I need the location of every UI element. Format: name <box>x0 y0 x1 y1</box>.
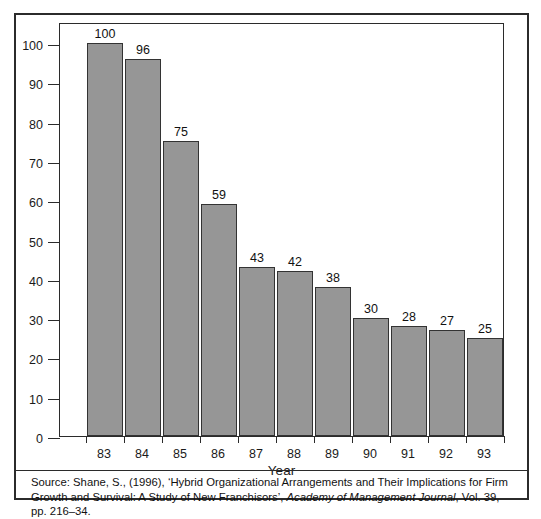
bar-slot: 59 <box>200 24 238 436</box>
y-axis-tick: 60 <box>48 202 60 203</box>
x-axis-tick-label: 88 <box>275 445 313 463</box>
bar[interactable] <box>429 330 465 436</box>
y-axis-tick: 50 <box>48 242 60 243</box>
bar-value-label: 96 <box>124 43 162 57</box>
y-axis-tick: 40 <box>48 281 60 282</box>
source-note-journal: Academy of Management Journal <box>287 491 456 503</box>
y-axis-tick-label: 10 <box>29 392 43 408</box>
x-axis-tick <box>200 436 201 443</box>
x-axis-tick-label: 93 <box>465 445 503 463</box>
x-axis-tick <box>466 436 467 443</box>
bar-slot: 28 <box>390 24 428 436</box>
y-axis-tick-label: 70 <box>29 156 43 172</box>
y-axis-tick: 90 <box>48 84 60 85</box>
x-axis-tick-label: 90 <box>351 445 389 463</box>
x-axis-tick-label: 85 <box>161 445 199 463</box>
x-axis-tick-label: 84 <box>123 445 161 463</box>
bar-value-label: 42 <box>276 255 314 269</box>
bar-slot: 25 <box>466 24 504 436</box>
plot-area: 0102030405060708090100 10096755943423830… <box>60 24 503 436</box>
bar-slot: 30 <box>352 24 390 436</box>
x-axis-tick <box>352 436 353 443</box>
x-axis-tick <box>86 436 87 443</box>
bar-value-label: 30 <box>352 302 390 316</box>
bar[interactable] <box>201 204 237 436</box>
bar-value-label: 43 <box>238 251 276 265</box>
x-axis-tick <box>124 436 125 443</box>
x-axis-tick <box>238 436 239 443</box>
bar-value-label: 100 <box>86 27 124 41</box>
figure-box: 0102030405060708090100 10096755943423830… <box>14 13 529 500</box>
bar-value-label: 27 <box>428 314 466 328</box>
bar[interactable] <box>239 267 275 436</box>
x-axis-tick-label: 83 <box>85 445 123 463</box>
x-axis-tick <box>314 436 315 443</box>
bar-slot: 96 <box>124 24 162 436</box>
x-axis-tick-label: 86 <box>199 445 237 463</box>
bar-value-label: 38 <box>314 271 352 285</box>
y-axis-tick: 80 <box>48 124 60 125</box>
bar[interactable] <box>277 271 313 436</box>
bar[interactable] <box>467 338 503 436</box>
y-axis-tick-label: 60 <box>29 195 43 211</box>
x-axis-ticks <box>86 436 503 443</box>
y-axis-tick-label: 50 <box>29 235 43 251</box>
bar-slot: 42 <box>276 24 314 436</box>
y-axis-tick: 0 <box>48 438 60 439</box>
y-axis-tick: 10 <box>48 399 60 400</box>
chart-region: 0102030405060708090100 10096755943423830… <box>16 15 531 470</box>
x-axis-labels: 8384858687888990919293 <box>59 445 504 463</box>
plot-frame: 0102030405060708090100 10096755943423830… <box>59 23 504 437</box>
bar-slot: 75 <box>162 24 200 436</box>
x-axis-tick <box>276 436 277 443</box>
y-axis-tick-label: 40 <box>29 274 43 290</box>
bar[interactable] <box>353 318 389 436</box>
x-axis-tick <box>162 436 163 443</box>
y-axis-tick-label: 80 <box>29 117 43 133</box>
bar[interactable] <box>391 326 427 436</box>
bar[interactable] <box>87 43 123 436</box>
bar[interactable] <box>163 141 199 436</box>
bar-slot: 27 <box>428 24 466 436</box>
x-axis-tick <box>390 436 391 443</box>
x-axis-tick-label: 87 <box>237 445 275 463</box>
y-axis-tick-label: 100 <box>22 38 43 54</box>
x-axis-tick-label: 89 <box>313 445 351 463</box>
bar-value-label: 59 <box>200 188 238 202</box>
bar-slot: 43 <box>238 24 276 436</box>
y-axis-tick: 70 <box>48 163 60 164</box>
x-axis-tick-label: 92 <box>427 445 465 463</box>
bar-slot: 100 <box>86 24 124 436</box>
y-axis-tick: 100 <box>48 45 60 46</box>
y-axis-tick-label: 0 <box>36 431 43 447</box>
x-axis-tick <box>428 436 429 443</box>
bar-value-label: 75 <box>162 125 200 139</box>
y-axis-tick-label: 90 <box>29 77 43 93</box>
bar-value-label: 28 <box>390 310 428 324</box>
y-axis-tick-label: 30 <box>29 313 43 329</box>
y-axis-tick-label: 20 <box>29 352 43 368</box>
source-divider <box>16 470 527 471</box>
source-note: Source: Shane, S., (1996), ‘Hybrid Organ… <box>31 475 515 519</box>
bar[interactable] <box>125 59 161 436</box>
bar-value-label: 25 <box>466 322 504 336</box>
x-axis-tick <box>504 436 505 443</box>
x-axis-tick-label: 91 <box>389 445 427 463</box>
y-axis-tick: 30 <box>48 320 60 321</box>
y-axis-tick: 20 <box>48 359 60 360</box>
bar-slot: 38 <box>314 24 352 436</box>
bars-layer: 10096755943423830282725 <box>86 24 503 436</box>
bar[interactable] <box>315 287 351 436</box>
